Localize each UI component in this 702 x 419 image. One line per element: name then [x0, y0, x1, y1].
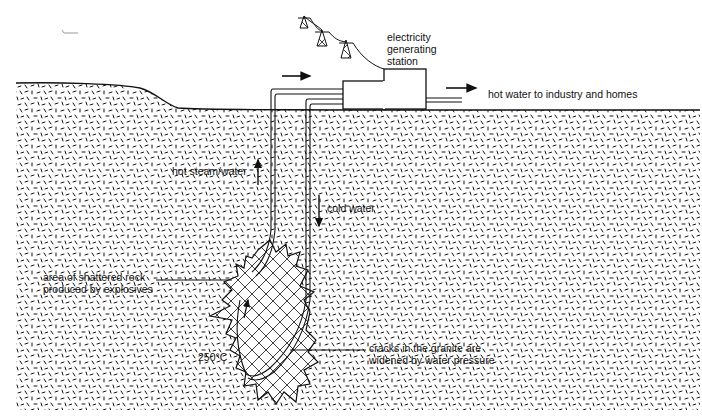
label-temperature: 250°C [198, 351, 227, 363]
label-station-line-2: generating [387, 43, 437, 55]
stray-mark [62, 30, 78, 33]
label-station-line-3: station [387, 55, 437, 67]
label-cracks: cracks in the granite are widened by wat… [369, 342, 494, 366]
label-cold-water: cold water [327, 202, 375, 214]
power-station [343, 69, 426, 109]
label-hot-steam: hot steam/water [172, 165, 247, 177]
label-cracks-line-1: cracks in the granite are [369, 342, 494, 354]
label-cracks-line-2: widened by water pressure [369, 354, 494, 366]
pylon-icon [298, 16, 384, 69]
label-hot-water-out: hot water to industry and homes [488, 88, 637, 100]
label-shattered-rock-line-1: area of shattered rock [43, 271, 153, 283]
granite-ground [16, 83, 700, 410]
label-station: electricity generating station [387, 31, 437, 67]
label-shattered-rock: area of shattered rock produced by explo… [43, 271, 153, 295]
label-station-line-1: electricity [387, 31, 437, 43]
geothermal-diagram: electricity generating station hot water… [0, 0, 702, 419]
label-shattered-rock-line-2: produced by explosives [43, 283, 153, 295]
